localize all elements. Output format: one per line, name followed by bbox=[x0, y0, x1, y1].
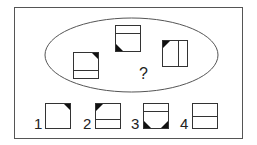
option-2-shape[interactable] bbox=[96, 104, 121, 129]
option-3-shape[interactable] bbox=[144, 104, 169, 129]
option-1-label[interactable]: 1 bbox=[34, 116, 42, 131]
option-1-shape[interactable] bbox=[46, 104, 71, 129]
option-3-label[interactable]: 3 bbox=[131, 116, 139, 131]
option-2-label[interactable]: 2 bbox=[83, 116, 91, 131]
option-4-shape[interactable] bbox=[193, 104, 218, 129]
option-4-label[interactable]: 4 bbox=[180, 116, 188, 131]
sequence-shape-b bbox=[116, 26, 141, 52]
sequence-shape-c bbox=[163, 41, 188, 67]
sequence-shape-a bbox=[74, 53, 99, 79]
question-mark: ? bbox=[139, 66, 148, 82]
